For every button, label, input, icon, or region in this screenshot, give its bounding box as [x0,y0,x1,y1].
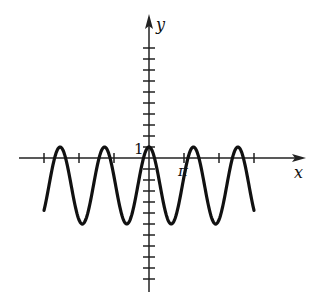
y-tick-label-1: 1 [134,140,144,158]
y-axis-label: y [155,15,166,34]
x-axis [19,153,306,163]
x-axis-label: x [294,163,303,182]
x-tick-label-pi: π [177,162,189,180]
chart: y x 1 π [0,0,316,306]
